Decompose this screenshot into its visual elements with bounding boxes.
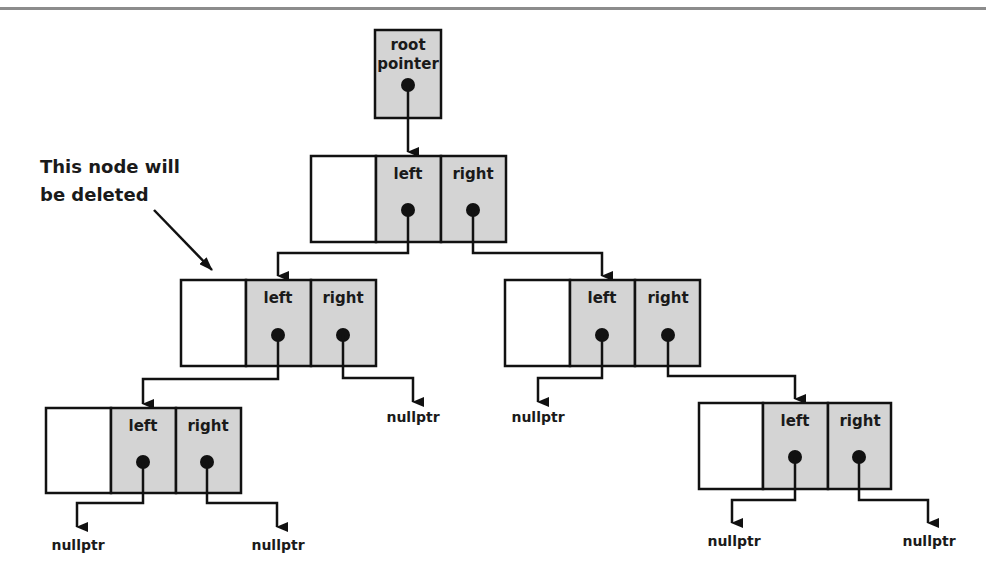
- right-label: right: [647, 289, 688, 307]
- nullptr-label: nullptr: [51, 537, 104, 553]
- left-label: left: [128, 417, 157, 435]
- annotation-arrow-icon: [154, 210, 212, 270]
- left-label: left: [587, 289, 616, 307]
- right-label: right: [452, 165, 493, 183]
- nullptr-label: nullptr: [902, 533, 955, 549]
- left-label: left: [263, 289, 292, 307]
- root-pointer-label-2: pointer: [377, 55, 439, 73]
- left-label: left: [780, 412, 809, 430]
- right-label: right: [322, 289, 363, 307]
- annotation-line-1: This node will: [40, 156, 180, 177]
- nullptr-label: nullptr: [251, 537, 304, 553]
- nullptr-label: nullptr: [386, 409, 439, 425]
- right-label: right: [839, 412, 880, 430]
- root-pointer-label-1: root: [390, 36, 425, 54]
- nullptr-label: nullptr: [707, 533, 760, 549]
- annotation-line-2: be deleted: [40, 184, 149, 205]
- nullptr-label: nullptr: [511, 409, 564, 425]
- left-label: left: [393, 165, 422, 183]
- right-label: right: [187, 417, 228, 435]
- tree-diagram: root pointer left right This node will b…: [0, 0, 986, 584]
